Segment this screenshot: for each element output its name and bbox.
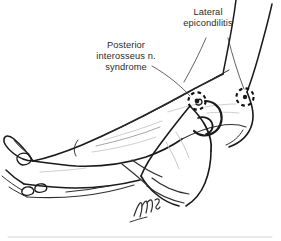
label-pin-line3: syndrome: [78, 62, 174, 73]
label-pin-line1: Posterior: [78, 40, 174, 51]
label-lateral-epicondilitis: Lateral epicondilitis: [168, 7, 248, 29]
forearm-elbow-line-drawing: [0, 0, 281, 241]
label-lateral-epicondilitis-line1: Lateral: [168, 7, 248, 18]
figure-background: [0, 0, 281, 241]
label-lateral-epicondilitis-line2: epicondilitis: [168, 18, 248, 29]
anatomical-figure: Lateral epicondilitis Posterior inteross…: [0, 0, 281, 241]
label-pin-line2: interosseus n.: [78, 51, 174, 62]
label-posterior-interosseus-syndrome: Posterior interosseus n. syndrome: [78, 40, 174, 74]
epicondyle-center-dot: [243, 95, 247, 99]
